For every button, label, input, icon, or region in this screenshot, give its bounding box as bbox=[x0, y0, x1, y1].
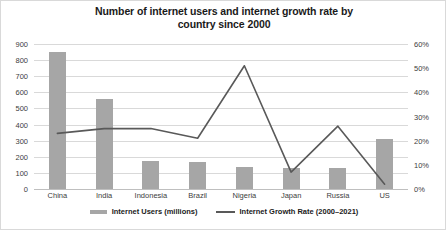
y-axis-left: 0100200300400500600700800900 bbox=[1, 44, 32, 189]
x-axis-label-japan: Japan bbox=[281, 191, 301, 200]
x-axis-label-china: China bbox=[48, 191, 68, 200]
chart-title-line-2: country since 2000 bbox=[1, 18, 446, 31]
gridline bbox=[34, 189, 408, 190]
y-axis-right-tick: 0% bbox=[414, 185, 425, 194]
legend-label-growth-rate: Internet Growth Rate (2000–2021) bbox=[240, 207, 359, 216]
y-axis-right-tick: 40% bbox=[414, 88, 429, 97]
y-axis-left-tick: 200 bbox=[15, 152, 28, 161]
x-axis-categories: ChinaIndiaIndonesiaBrazilNigeriaJapanRus… bbox=[34, 191, 408, 205]
plot-area bbox=[34, 44, 408, 189]
y-axis-left-tick: 600 bbox=[15, 88, 28, 97]
x-axis-label-india: India bbox=[96, 191, 112, 200]
y-axis-right-tick: 20% bbox=[414, 136, 429, 145]
line-series bbox=[34, 44, 408, 189]
y-axis-right-tick: 60% bbox=[414, 40, 429, 49]
chart-title-line-1: Number of internet users and internet gr… bbox=[1, 5, 446, 18]
legend-bar-swatch-icon bbox=[90, 210, 107, 214]
y-axis-right-tick: 10% bbox=[414, 160, 429, 169]
chart-legend: Internet Users (millions) Internet Growt… bbox=[1, 207, 446, 216]
legend-item-growth-rate: Internet Growth Rate (2000–2021) bbox=[216, 207, 359, 216]
x-axis-label-us: US bbox=[379, 191, 389, 200]
y-axis-right: 0%10%20%30%40%50%60% bbox=[410, 44, 446, 189]
y-axis-left-tick: 400 bbox=[15, 120, 28, 129]
y-axis-right-tick: 50% bbox=[414, 64, 429, 73]
y-axis-right-tick: 30% bbox=[414, 112, 429, 121]
legend-label-internet-users: Internet Users (millions) bbox=[112, 207, 198, 216]
x-axis-label-russia: Russia bbox=[326, 191, 349, 200]
legend-item-internet-users: Internet Users (millions) bbox=[90, 207, 198, 216]
chart-title: Number of internet users and internet gr… bbox=[1, 5, 446, 31]
y-axis-left-tick: 100 bbox=[15, 168, 28, 177]
chart-container: Number of internet users and internet gr… bbox=[0, 0, 446, 230]
y-axis-left-tick: 800 bbox=[15, 56, 28, 65]
y-axis-left-tick: 500 bbox=[15, 104, 28, 113]
y-axis-left-tick: 0 bbox=[24, 185, 28, 194]
x-axis-label-brazil: Brazil bbox=[188, 191, 207, 200]
legend-line-swatch-icon bbox=[216, 211, 235, 213]
y-axis-left-tick: 900 bbox=[15, 40, 28, 49]
y-axis-left-tick: 300 bbox=[15, 136, 28, 145]
y-axis-left-tick: 700 bbox=[15, 72, 28, 81]
x-axis-label-nigeria: Nigeria bbox=[232, 191, 256, 200]
growth-rate-line bbox=[57, 66, 384, 184]
x-axis-label-indonesia: Indonesia bbox=[135, 191, 168, 200]
